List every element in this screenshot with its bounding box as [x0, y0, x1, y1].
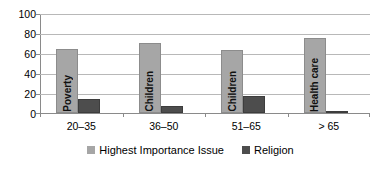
y-tick-label-100: 100 — [6, 9, 36, 19]
bar-secondary-20-35[interactable] — [78, 99, 100, 113]
bar-label-over-65: Health care — [309, 58, 320, 112]
bar-primary-20-35[interactable]: Poverty — [56, 49, 78, 113]
x-tickmark-3 — [288, 113, 289, 117]
bar-group-51-65: Children — [205, 14, 288, 113]
bar-group-20-35: Poverty — [40, 14, 123, 113]
plot-area: Poverty Children Children — [40, 14, 370, 113]
x-tick-label-36-50: 36–50 — [123, 120, 206, 132]
bar-label-36-50: Children — [144, 71, 155, 112]
bar-primary-36-50[interactable]: Children — [139, 43, 161, 113]
legend-label-highest-importance-issue: Highest Importance Issue — [99, 144, 224, 156]
legend-swatch-icon-primary — [87, 146, 95, 154]
bar-label-20-35: Poverty — [62, 75, 73, 112]
bar-chart: 100 80 60 40 20 0 Poverty — [0, 0, 381, 174]
x-tickmark-2 — [205, 113, 206, 117]
y-tick-label-20: 20 — [6, 89, 36, 99]
legend-item-religion[interactable]: Religion — [242, 144, 294, 156]
x-tickmark-1 — [123, 113, 124, 117]
bar-secondary-36-50[interactable] — [161, 106, 183, 113]
x-axis-ticks — [40, 113, 370, 118]
x-tickmark-4 — [369, 113, 370, 117]
bar-primary-51-65[interactable]: Children — [221, 50, 243, 113]
x-tick-label-20-35: 20–35 — [40, 120, 123, 132]
y-tick-label-80: 80 — [6, 29, 36, 39]
bar-group-over-65: Health care — [288, 14, 371, 113]
y-tick-label-0: 0 — [6, 109, 36, 119]
x-tick-label-51-65: 51–65 — [205, 120, 288, 132]
x-tick-label-over-65: > 65 — [288, 120, 371, 132]
y-tick-label-60: 60 — [6, 49, 36, 59]
y-tick-label-40: 40 — [6, 69, 36, 79]
legend-item-highest-importance-issue[interactable]: Highest Importance Issue — [87, 144, 224, 156]
x-axis-labels: 20–35 36–50 51–65 > 65 — [40, 120, 370, 134]
bar-primary-over-65[interactable]: Health care — [304, 38, 326, 113]
bar-label-51-65: Children — [227, 71, 238, 112]
legend-swatch-icon-secondary — [242, 146, 250, 154]
chart-legend: Highest Importance Issue Religion — [0, 144, 381, 156]
bar-secondary-51-65[interactable] — [243, 96, 265, 113]
bar-group-36-50: Children — [123, 14, 206, 113]
legend-label-religion: Religion — [254, 144, 294, 156]
x-tickmark-0 — [40, 113, 41, 117]
